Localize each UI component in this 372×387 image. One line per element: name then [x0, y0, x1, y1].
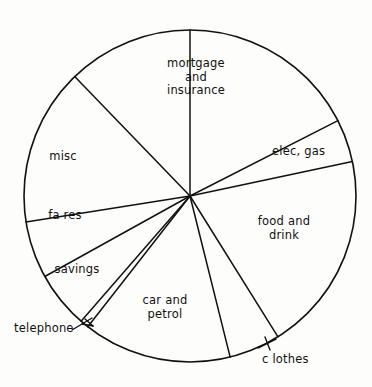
slice-label-car-and-petrol: car and petrol	[122, 294, 208, 321]
pie-spoke-78	[190, 161, 352, 196]
slice-label-mortgage-and-insurance: mortgage and insurance	[140, 57, 252, 98]
slice-label-savings: savings	[44, 263, 110, 277]
slice-label-fares: fa res	[36, 209, 94, 223]
pie-leader-lines-group	[72, 318, 276, 350]
slice-label-food-and-drink: food and drink	[238, 215, 330, 242]
slice-label-misc: misc	[36, 150, 90, 164]
pie-spoke-166	[190, 196, 230, 357]
pie-chart-figure: mortgage and insurance elec, gas food an…	[0, 0, 372, 387]
slice-label-elec-gas: elec, gas	[272, 145, 346, 159]
slice-label-telephone: telephone	[14, 322, 92, 336]
slice-label-clothes: c lothes	[262, 353, 328, 367]
